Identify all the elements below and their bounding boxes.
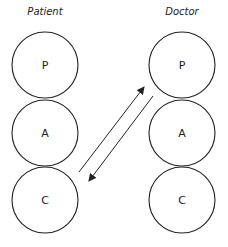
doctor-parent-label: P [179, 59, 186, 72]
arrow-doctor-parent-to-patient-child-icon [89, 96, 153, 181]
patient-parent-label: P [42, 59, 49, 72]
patient-adult-ego: A [12, 100, 78, 166]
doctor-child-label: C [178, 194, 186, 207]
patient-adult-label: A [41, 127, 49, 140]
doctor-heading: Doctor [165, 6, 199, 17]
patient-heading: Patient [27, 6, 63, 17]
patient-child-label: C [41, 194, 49, 207]
arrow-patient-child-to-doctor-parent-icon [79, 87, 144, 172]
doctor-adult-label: A [178, 127, 186, 140]
doctor-parent-ego: P [149, 32, 215, 98]
patient-parent-ego: P [12, 32, 78, 98]
doctor-adult-ego: A [149, 100, 215, 166]
patient-child-ego: C [12, 167, 78, 233]
doctor-child-ego: C [149, 167, 215, 233]
pac-transaction-diagram: Patient P A C Doctor P A C [0, 0, 228, 247]
